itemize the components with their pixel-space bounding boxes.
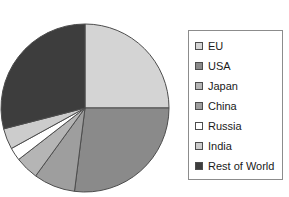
- legend-swatch-icon: [195, 122, 203, 130]
- legend-item-label: China: [208, 101, 237, 112]
- legend-item-china[interactable]: China: [195, 96, 282, 116]
- legend-swatch-icon: [195, 142, 203, 150]
- chart-legend: EUUSAJapanChinaRussiaIndiaRest of World: [188, 30, 283, 180]
- legend-item-label: India: [208, 141, 232, 152]
- legend-item-label: Rest of World: [208, 161, 274, 172]
- legend-item-japan[interactable]: Japan: [195, 76, 282, 96]
- legend-item-russia[interactable]: Russia: [195, 116, 282, 136]
- pie-chart-svg: [0, 0, 180, 197]
- pie-slice-usa[interactable]: [74, 108, 169, 192]
- legend-item-usa[interactable]: USA: [195, 56, 282, 76]
- legend-swatch-icon: [195, 162, 203, 170]
- legend-item-label: EU: [208, 41, 223, 52]
- legend-swatch-icon: [195, 102, 203, 110]
- legend-item-label: Russia: [208, 121, 242, 132]
- pie-chart-plot-area: [0, 0, 180, 197]
- legend-swatch-icon: [195, 82, 203, 90]
- legend-item-eu[interactable]: EU: [195, 36, 282, 56]
- pie-chart-figure: EUUSAJapanChinaRussiaIndiaRest of World: [0, 0, 289, 197]
- pie-slice-eu[interactable]: [85, 24, 169, 108]
- legend-swatch-icon: [195, 42, 203, 50]
- legend-item-label: USA: [208, 61, 231, 72]
- legend-item-label: Japan: [208, 81, 238, 92]
- pie-slice-group: [1, 24, 169, 192]
- legend-item-list: EUUSAJapanChinaRussiaIndiaRest of World: [195, 36, 282, 176]
- legend-item-rest-of-world[interactable]: Rest of World: [195, 156, 282, 176]
- legend-swatch-icon: [195, 62, 203, 70]
- legend-item-india[interactable]: India: [195, 136, 282, 156]
